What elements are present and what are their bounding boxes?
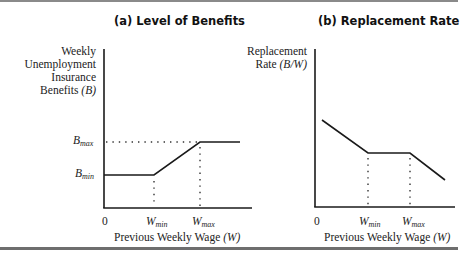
panel-b-guides: [368, 158, 410, 205]
panel-a-benefit-curve: [104, 142, 240, 175]
panel-b-replacement-curve: [322, 120, 445, 180]
panel-b-axes: [314, 49, 455, 207]
bottom-rule: [0, 247, 458, 250]
panel-a-axes: [103, 49, 252, 208]
diagram-lines: [0, 0, 472, 260]
